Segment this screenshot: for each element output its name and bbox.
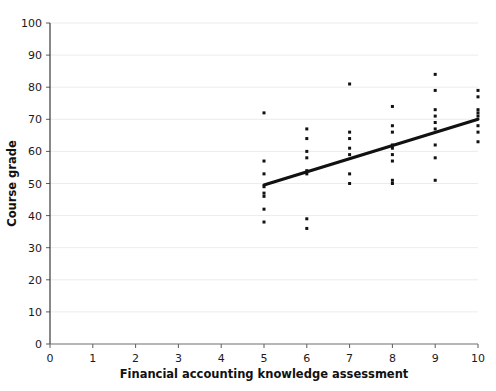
data-point	[434, 121, 437, 124]
data-point	[477, 115, 480, 118]
x-tick-label: 0	[47, 352, 54, 365]
data-point	[477, 89, 480, 92]
data-point	[391, 179, 394, 182]
x-tick-label: 7	[346, 352, 353, 365]
data-point	[348, 182, 351, 185]
data-point	[477, 111, 480, 114]
data-point	[263, 195, 266, 198]
data-point	[348, 153, 351, 156]
data-point	[434, 156, 437, 159]
x-tick-label: 5	[261, 352, 268, 365]
data-point	[391, 182, 394, 185]
data-point	[348, 172, 351, 175]
trend-line	[264, 119, 478, 185]
data-point	[434, 89, 437, 92]
data-point	[434, 143, 437, 146]
x-axis-ticks-group: 012345678910	[47, 344, 486, 365]
plot-canvas: 0102030405060708090100 012345678910 Fina…	[0, 0, 496, 391]
data-point	[305, 217, 308, 220]
data-point	[391, 131, 394, 134]
y-axis-ticks-group: 0102030405060708090100	[21, 17, 50, 351]
y-tick-label: 20	[28, 274, 42, 287]
y-tick-label: 90	[28, 49, 42, 62]
data-point	[348, 137, 351, 140]
data-point	[305, 156, 308, 159]
y-tick-label: 80	[28, 81, 42, 94]
x-tick-label: 2	[132, 352, 139, 365]
x-axis-title: Financial accounting knowledge assessmen…	[120, 367, 409, 381]
data-point	[391, 153, 394, 156]
y-tick-label: 30	[28, 242, 42, 255]
y-tick-label: 0	[35, 338, 42, 351]
data-point	[477, 95, 480, 98]
data-point	[305, 150, 308, 153]
x-tick-label: 3	[175, 352, 182, 365]
data-point	[477, 140, 480, 143]
data-point	[263, 208, 266, 211]
data-point	[391, 124, 394, 127]
x-tick-label: 9	[432, 352, 439, 365]
data-point	[263, 111, 266, 114]
data-point	[434, 179, 437, 182]
data-point	[263, 160, 266, 163]
data-point	[348, 131, 351, 134]
data-point	[477, 124, 480, 127]
y-tick-label: 10	[28, 306, 42, 319]
data-point	[434, 73, 437, 76]
y-tick-label: 40	[28, 210, 42, 223]
data-point	[348, 82, 351, 85]
x-tick-label: 4	[218, 352, 225, 365]
y-tick-label: 60	[28, 145, 42, 158]
gridlines-group	[50, 23, 478, 312]
data-point	[391, 105, 394, 108]
data-point	[434, 108, 437, 111]
data-point	[477, 131, 480, 134]
scatter-plot-figure: 0102030405060708090100 012345678910 Fina…	[0, 0, 496, 391]
y-tick-label: 50	[28, 178, 42, 191]
x-tick-label: 8	[389, 352, 396, 365]
y-tick-label: 70	[28, 113, 42, 126]
data-point	[305, 127, 308, 130]
data-point	[263, 221, 266, 224]
data-point	[263, 172, 266, 175]
x-tick-label: 10	[471, 352, 485, 365]
data-point	[434, 115, 437, 118]
x-tick-label: 6	[303, 352, 310, 365]
data-point	[305, 227, 308, 230]
data-point	[263, 192, 266, 195]
data-point	[391, 160, 394, 163]
y-axis-title: Course grade	[5, 140, 19, 227]
x-tick-label: 1	[89, 352, 96, 365]
data-point	[348, 147, 351, 150]
data-point	[477, 108, 480, 111]
y-tick-label: 100	[21, 17, 42, 30]
data-point	[305, 137, 308, 140]
data-point	[434, 127, 437, 130]
